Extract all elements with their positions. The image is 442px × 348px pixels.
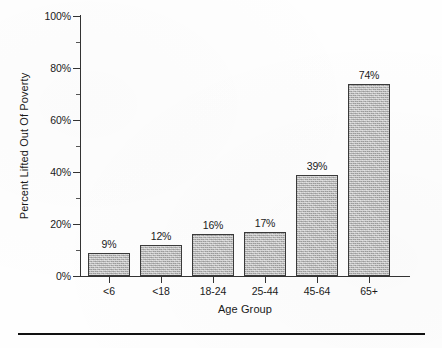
bar bbox=[192, 234, 234, 276]
y-tick-mark bbox=[73, 224, 80, 225]
y-minor-tick-mark bbox=[76, 42, 80, 43]
x-axis-title-label: Age Group bbox=[218, 303, 272, 315]
x-tick-mark bbox=[265, 277, 266, 283]
plot-area: 0%20%40%60%80%100% 9%12%16%17%39%74% bbox=[80, 16, 410, 276]
y-minor-tick-mark bbox=[76, 146, 80, 147]
bar-value-label: 9% bbox=[102, 238, 117, 250]
y-axis-title: Percent Lifted Out Of Poverty bbox=[16, 0, 32, 292]
x-category-label: 18-24 bbox=[200, 285, 226, 297]
bar-group: 9% bbox=[88, 16, 130, 276]
bar-group: 16% bbox=[192, 16, 234, 276]
x-tick-mark bbox=[369, 277, 370, 283]
x-tick-mark bbox=[213, 277, 214, 283]
bar-value-label: 39% bbox=[307, 160, 328, 172]
y-minor-tick-mark bbox=[76, 198, 80, 199]
y-tick-mark bbox=[73, 276, 80, 277]
bar bbox=[140, 245, 182, 276]
y-tick-mark bbox=[73, 16, 80, 17]
x-axis-title: Age Group bbox=[80, 303, 410, 315]
bar-value-label: 17% bbox=[255, 217, 276, 229]
bar bbox=[296, 175, 338, 276]
bar-group: 39% bbox=[296, 16, 338, 276]
y-tick-label: 20% bbox=[50, 218, 71, 230]
y-tick-label: 40% bbox=[50, 166, 71, 178]
bar-group: 17% bbox=[244, 16, 286, 276]
x-axis-line bbox=[80, 276, 410, 277]
x-category-label: <18 bbox=[152, 285, 170, 297]
bar-group: 74% bbox=[348, 16, 390, 276]
x-tick-mark bbox=[109, 277, 110, 283]
y-tick-label: 0% bbox=[56, 270, 71, 282]
bar bbox=[244, 232, 286, 276]
y-minor-tick-mark bbox=[76, 94, 80, 95]
bar-value-label: 16% bbox=[203, 219, 224, 231]
bottom-horizontal-rule bbox=[18, 333, 425, 335]
x-category-label: 45-64 bbox=[304, 285, 330, 297]
x-tick-mark bbox=[317, 277, 318, 283]
x-tick-mark bbox=[161, 277, 162, 283]
bar-group: 12% bbox=[140, 16, 182, 276]
bar-value-label: 74% bbox=[359, 69, 380, 81]
y-tick-label: 80% bbox=[50, 62, 71, 74]
y-axis-title-label: Percent Lifted Out Of Poverty bbox=[18, 73, 30, 220]
bar-chart-figure: Percent Lifted Out Of Poverty 0%20%40%60… bbox=[0, 0, 442, 348]
x-category-label: 65+ bbox=[360, 285, 378, 297]
y-tick-mark bbox=[73, 172, 80, 173]
y-minor-tick-mark bbox=[76, 250, 80, 251]
bar bbox=[88, 253, 130, 276]
y-tick-label: 100% bbox=[45, 10, 71, 22]
y-tick-mark bbox=[73, 120, 80, 121]
x-category-label: <6 bbox=[103, 285, 115, 297]
bar-value-label: 12% bbox=[151, 230, 172, 242]
bar bbox=[348, 84, 390, 276]
y-tick-mark bbox=[73, 68, 80, 69]
x-category-label: 25-44 bbox=[252, 285, 278, 297]
y-tick-label: 60% bbox=[50, 114, 71, 126]
